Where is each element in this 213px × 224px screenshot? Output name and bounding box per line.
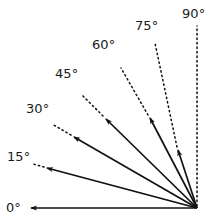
ray-75-label: 75°: [135, 19, 158, 32]
ray-45-dotted-segment: [82, 95, 103, 116]
ray-0-label: 0°: [6, 201, 21, 214]
ray-15-dotted-segment: [33, 164, 44, 167]
angle-diagram: 0°15°30°45°60°75°90°: [0, 0, 213, 224]
ray-30-dotted-segment: [52, 124, 71, 135]
ray-15-label: 15°: [7, 150, 30, 163]
ray-30-label: 30°: [26, 102, 49, 115]
ray-60-label: 60°: [92, 38, 115, 51]
ray-15-solid-segment: [47, 168, 197, 208]
ray-60-dotted-segment: [121, 68, 148, 115]
ray-75-dotted-segment: [155, 43, 177, 147]
ray-90-label: 90°: [182, 7, 205, 20]
ray-45-label: 45°: [55, 67, 78, 80]
